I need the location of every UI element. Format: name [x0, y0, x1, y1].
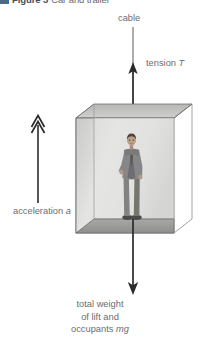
lift-box-top-face	[76, 104, 192, 118]
lift-box-floor	[76, 219, 174, 233]
lift-diagram	[0, 0, 200, 344]
tension-arrow-up	[128, 62, 137, 105]
acceleration-double-chevron-arrow-up	[32, 116, 45, 204]
